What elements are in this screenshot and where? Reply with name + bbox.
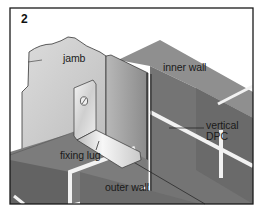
figure-number: 2 xyxy=(21,12,28,26)
label-vertical-dpc: vertical DPC xyxy=(206,120,238,141)
label-outer-wall: outer wall xyxy=(105,182,149,193)
wall-section-illustration xyxy=(0,0,257,211)
screw-head-icon xyxy=(80,97,87,105)
label-vertical-dpc-line2: DPC xyxy=(206,130,228,142)
label-inner-wall: inner wall xyxy=(163,62,206,73)
label-fixing-lug: fixing lug xyxy=(60,150,100,161)
label-jamb: jamb xyxy=(63,53,85,64)
diagram-figure: 2 jamb inner wall vertical DPC fixing lu… xyxy=(0,0,257,211)
